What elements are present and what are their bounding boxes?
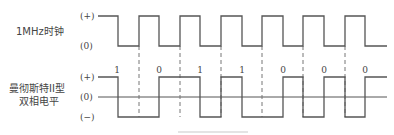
clock-level-high: (+) xyxy=(80,11,95,21)
bit-label: 1 xyxy=(114,65,120,75)
bit-label: 0 xyxy=(362,65,368,75)
caption-trace xyxy=(178,131,248,133)
manchester-level-zero: (0) xyxy=(80,92,93,102)
bit-label: 0 xyxy=(280,65,286,75)
clock-signal-name: 1MHz时钟 xyxy=(16,25,64,37)
manchester-signal-name-line2: 双相电平 xyxy=(19,95,59,107)
clock-waveform xyxy=(98,16,387,46)
clock-level-low: (0) xyxy=(80,41,93,51)
bit-label: 1 xyxy=(239,65,245,75)
manchester-level-low: (−) xyxy=(80,112,95,122)
manchester-signal-name-line1: 曼彻斯特II型 xyxy=(9,82,65,94)
bit-label: 0 xyxy=(321,65,327,75)
manchester-level-high: (+) xyxy=(80,72,95,82)
manchester-encoding-diagram: 1MHz时钟 曼彻斯特II型 双相电平 (+) (0) (+) (0) (−) … xyxy=(0,0,394,135)
bit-labels: 1011000 xyxy=(114,65,368,75)
bit-label: 0 xyxy=(156,65,162,75)
bit-label: 1 xyxy=(197,65,203,75)
